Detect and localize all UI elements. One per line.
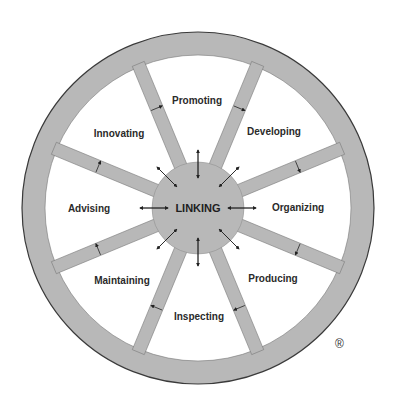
sector-label-maintaining: Maintaining: [94, 275, 150, 286]
sector-label-innovating: Innovating: [94, 128, 145, 139]
sector-label-developing: Developing: [247, 126, 301, 137]
sector-label-advising: Advising: [68, 203, 110, 214]
sector-label-producing: Producing: [248, 273, 297, 284]
sector-label-inspecting: Inspecting: [174, 311, 224, 322]
team-wheel-diagram: LINKING Promoting Developing Organizing …: [0, 0, 394, 409]
hub-label: LINKING: [175, 202, 220, 214]
registered-mark: ®: [335, 337, 344, 351]
sector-label-promoting: Promoting: [172, 95, 222, 106]
sector-label-organizing: Organizing: [272, 202, 324, 213]
